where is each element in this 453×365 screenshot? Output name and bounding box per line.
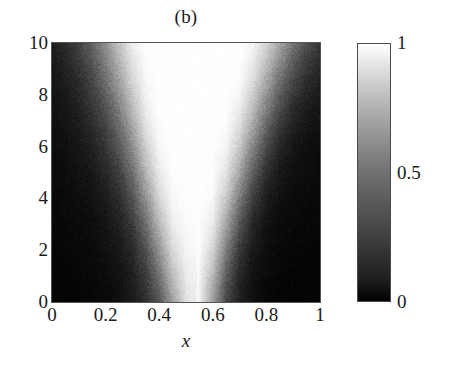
x-tick-label: 0.6: [201, 304, 225, 326]
y-tick-label: 6: [8, 136, 52, 158]
x-axis-label: x: [52, 330, 320, 352]
heatmap-canvas: [52, 43, 320, 302]
colorbar-tick-label: 0.5: [397, 162, 421, 184]
colorbar-gradient: [357, 43, 391, 302]
figure-panel-b: (b) 0246810 00.20.40.60.81 x 00.51: [0, 0, 453, 365]
x-tick-label: 0.4: [147, 304, 171, 326]
x-tick-label: 0.8: [255, 304, 279, 326]
y-tick-label: 2: [8, 239, 52, 261]
x-tick-label: 1: [315, 304, 325, 326]
x-tick-label: 0: [47, 304, 57, 326]
x-tick-label: 0.2: [94, 304, 118, 326]
y-axis-tick-labels: 0246810: [0, 43, 52, 302]
y-tick-label: 4: [8, 187, 52, 209]
y-tick-label: 0: [8, 291, 52, 313]
x-axis-tick-labels: 00.20.40.60.81: [52, 304, 320, 330]
y-tick-label: 8: [8, 84, 52, 106]
page-title: (b): [52, 6, 320, 28]
y-tick-label: 10: [8, 32, 52, 54]
heatmap-plot-area: [52, 43, 320, 302]
colorbar-tick-label: 0: [397, 291, 407, 313]
colorbar-tick-labels: 00.51: [391, 43, 451, 302]
colorbar-tick-label: 1: [397, 32, 407, 54]
